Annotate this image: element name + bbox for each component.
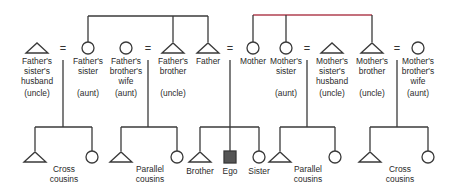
marriage-equals-sign: = xyxy=(227,43,233,53)
brother-label: Brother xyxy=(186,166,213,176)
female-circle-icon xyxy=(422,151,434,163)
ms-husband-label: Mother's sister's husband xyxy=(316,56,348,86)
ego-label: Ego xyxy=(223,166,238,176)
male-triangle-icon xyxy=(110,152,132,162)
f-sister-label: Father's sister xyxy=(73,56,103,76)
female-circle-icon xyxy=(280,42,292,54)
sister-label: Sister xyxy=(248,166,269,176)
male-triangle-icon xyxy=(24,152,46,162)
male-triangle-icon xyxy=(162,43,184,53)
mothers-sister-children-label: Parallel cousins xyxy=(294,164,322,184)
kinship-diagram xyxy=(0,0,459,189)
male-triangle-icon xyxy=(197,43,219,53)
mother-label: Mother xyxy=(240,56,266,66)
father-label: Father xyxy=(196,56,220,66)
female-circle-icon xyxy=(120,42,132,54)
fb-wife-term: (aunt) xyxy=(115,88,137,98)
f-brother-term: (uncle) xyxy=(160,88,186,98)
marriage-equals-sign: = xyxy=(394,43,400,53)
f-sister-term: (aunt) xyxy=(77,88,99,98)
fathers-brother-children-label: Parallel cousins xyxy=(136,164,164,184)
m-brother-label: Mother's brother xyxy=(356,56,388,76)
fss-husband-label: Father's sister's husband xyxy=(21,56,53,86)
marriage-equals-sign: = xyxy=(145,43,151,53)
m-brother-term: (uncle) xyxy=(359,88,385,98)
male-triangle-icon xyxy=(269,152,291,162)
mothers-brother-children-label: Cross cousins xyxy=(386,164,414,184)
fss-husband-term: (uncle) xyxy=(24,88,50,98)
marriage-equals-sign: = xyxy=(304,43,310,53)
female-circle-icon xyxy=(412,42,424,54)
m-sister-term: (aunt) xyxy=(275,88,297,98)
male-triangle-icon xyxy=(26,43,48,53)
fathers-sister-children-label: Cross cousins xyxy=(50,164,78,184)
male-triangle-icon xyxy=(189,152,211,162)
m-sister-label: Mother's sister xyxy=(270,56,302,76)
mb-wife-label: Mother's brother's wife xyxy=(402,56,434,86)
female-circle-icon xyxy=(82,42,94,54)
male-triangle-icon xyxy=(321,43,343,53)
f-brother-label: Father's brother xyxy=(158,56,188,76)
mb-wife-term: (aunt) xyxy=(407,88,429,98)
female-circle-icon xyxy=(253,151,265,163)
female-circle-icon xyxy=(171,151,183,163)
female-circle-icon xyxy=(86,151,98,163)
male-triangle-icon xyxy=(359,152,381,162)
ms-husband-term: (uncle) xyxy=(319,88,345,98)
marriage-equals-sign: = xyxy=(60,43,66,53)
female-circle-icon xyxy=(247,42,259,54)
female-circle-icon xyxy=(329,151,341,163)
fb-wife-label: Father's brother's wife xyxy=(110,56,142,86)
ego-square-icon xyxy=(224,151,236,163)
male-triangle-icon xyxy=(361,43,383,53)
